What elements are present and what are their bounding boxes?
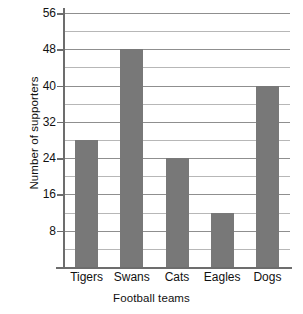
y-axis-tick: [57, 231, 64, 233]
y-axis-tick: [57, 122, 64, 124]
y-axis-tick-label: 40: [30, 80, 56, 92]
y-axis-tick-label: 32: [30, 116, 56, 128]
bar: [166, 158, 189, 267]
y-axis-tick-labels: 8162432404856: [26, 0, 56, 314]
x-axis-line: [56, 267, 292, 269]
bar: [211, 213, 234, 267]
x-axis-category-labels: TigersSwansCatsEaglesDogs: [56, 270, 296, 290]
x-axis-title: Football teams: [0, 292, 303, 304]
bar: [256, 86, 279, 267]
y-axis-tick: [57, 194, 64, 196]
y-axis-tick-label: 8: [30, 225, 56, 237]
x-axis-category-label: Cats: [154, 270, 199, 284]
x-axis-category-label: Eagles: [200, 270, 245, 284]
y-axis-tick: [57, 13, 64, 15]
bar: [75, 140, 98, 267]
x-axis-category-label: Swans: [109, 270, 154, 284]
bar-chart: Number of supporters 8162432404856 Tiger…: [0, 0, 303, 314]
x-axis-category-label: Dogs: [245, 270, 290, 284]
y-axis-tick-label: 56: [30, 7, 56, 19]
y-axis-tick-label: 24: [30, 152, 56, 164]
y-axis-tick-label: 48: [30, 43, 56, 55]
bar: [120, 49, 143, 267]
y-axis-tick-label: 16: [30, 188, 56, 200]
y-axis-tick: [57, 158, 64, 160]
y-axis-tick: [57, 49, 64, 51]
y-axis-tick: [57, 86, 64, 88]
bar-series: [64, 13, 290, 267]
x-axis-category-label: Tigers: [64, 270, 109, 284]
